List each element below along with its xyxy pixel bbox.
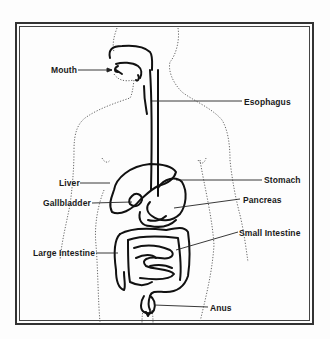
label-gallbladder: Gallbladder — [43, 198, 91, 208]
label-pancreas: Pancreas — [243, 195, 282, 205]
small-intestine-leader — [176, 232, 238, 250]
label-large-intestine: Large Intestine — [33, 248, 95, 258]
label-stomach: Stomach — [264, 175, 301, 185]
anus-leader — [154, 305, 208, 307]
label-mouth: Mouth — [51, 65, 77, 75]
digestive-system-illustration — [0, 0, 330, 339]
label-anus: Anus — [210, 303, 232, 313]
label-liver: Liver — [59, 178, 80, 188]
label-small-intestine: Small Intestine — [239, 228, 301, 238]
label-esophagus: Esophagus — [244, 97, 291, 107]
gallbladder-leader — [92, 202, 132, 203]
